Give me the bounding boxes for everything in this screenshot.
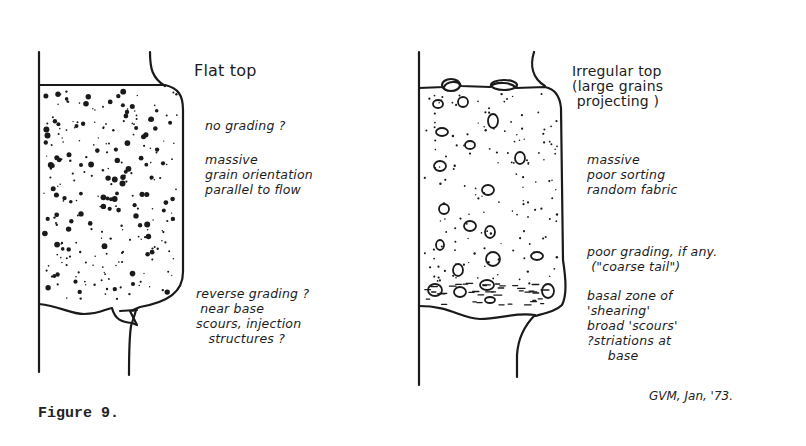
grain-dot <box>136 115 138 117</box>
matrix-dot <box>428 98 430 100</box>
grain-dot <box>144 221 150 227</box>
matrix-dot <box>523 257 525 259</box>
matrix-dot <box>445 231 447 233</box>
grain-dot <box>54 242 60 248</box>
matrix-dot <box>466 133 468 135</box>
matrix-dot <box>444 270 446 272</box>
matrix-dot <box>542 237 544 239</box>
grain-dot <box>128 293 130 295</box>
grain-dot <box>172 92 174 94</box>
grain-dot <box>106 288 108 290</box>
grain-dot <box>112 177 118 183</box>
matrix-dot <box>434 140 436 142</box>
matrix-dot <box>556 145 558 147</box>
grain-dot <box>138 285 140 287</box>
grain-dot <box>65 90 67 92</box>
matrix-dot <box>516 173 518 175</box>
grain-dot <box>58 133 60 135</box>
grain-dot <box>68 101 70 103</box>
matrix-dot <box>497 274 499 276</box>
grain-dot <box>161 240 163 242</box>
grain-dot <box>46 217 50 221</box>
matrix-dot <box>516 134 518 136</box>
grain-dot <box>164 241 166 243</box>
matrix-dot <box>497 162 498 163</box>
grain-dot <box>101 231 103 233</box>
left-note-base: reverse grading ? near base scours, inje… <box>196 286 309 346</box>
grain-dot <box>97 196 99 198</box>
grain-dot <box>109 197 113 201</box>
grain-dot <box>84 281 86 283</box>
matrix-dot <box>454 227 456 229</box>
matrix-dot <box>466 223 468 225</box>
grain-dot <box>56 254 58 256</box>
grain-dot <box>143 145 145 147</box>
matrix-dot <box>483 192 485 194</box>
grain-dot <box>105 175 110 180</box>
grain-dot <box>51 186 56 191</box>
grain-dot <box>170 197 175 202</box>
matrix-dot <box>538 152 540 154</box>
matrix-dot <box>468 262 469 263</box>
clast <box>464 221 476 231</box>
matrix-dot <box>454 241 456 243</box>
grain-dot <box>155 147 159 151</box>
matrix-dot <box>537 112 539 114</box>
grain-dot <box>79 192 83 196</box>
grain-dot <box>66 297 68 299</box>
matrix-dot <box>535 181 537 183</box>
grain-dot <box>124 174 126 176</box>
left-bed-base <box>39 304 137 325</box>
grain-dot <box>134 110 136 112</box>
grain-dot <box>77 215 79 217</box>
grain-dot <box>62 137 63 138</box>
grain-dot <box>145 252 150 257</box>
grain-dot <box>102 106 104 108</box>
grain-dot <box>133 134 135 136</box>
grain-dot <box>132 195 134 197</box>
grain-dot <box>149 286 150 287</box>
grain-dot <box>146 234 151 239</box>
grain-dot <box>53 119 57 123</box>
grain-dot <box>171 212 172 213</box>
grain-dot <box>78 290 82 294</box>
grain-dot <box>116 298 118 300</box>
grain-dot <box>45 285 50 290</box>
grain-dot <box>94 109 96 111</box>
matrix-dot <box>492 278 494 280</box>
matrix-dot <box>534 209 536 211</box>
grain-dot <box>154 246 156 248</box>
grain-dot <box>59 128 61 130</box>
grain-dot <box>140 192 145 197</box>
grain-dot <box>94 255 96 257</box>
matrix-dot <box>477 197 479 199</box>
clast <box>465 141 475 149</box>
matrix-dot <box>549 275 551 277</box>
matrix-dot <box>527 270 529 272</box>
clast <box>458 97 468 107</box>
grain-dot <box>105 123 107 125</box>
grain-dot <box>95 148 100 153</box>
right-bed-clasts <box>428 97 554 303</box>
matrix-dot <box>540 208 542 210</box>
grain-dot <box>121 161 123 163</box>
grain-dot <box>115 205 117 207</box>
grain-dot <box>66 226 71 231</box>
grain-dot <box>143 273 144 274</box>
grain-dot <box>43 126 49 132</box>
grain-dot <box>138 236 140 238</box>
matrix-dot <box>478 122 479 123</box>
matrix-dot <box>445 156 447 158</box>
grain-dot <box>154 105 156 107</box>
clast <box>453 264 463 276</box>
grain-dot <box>175 93 177 95</box>
grain-dot <box>93 284 95 286</box>
matrix-dot <box>513 162 515 164</box>
right-note-base: basal zone of 'shearing' broad 'scours' … <box>587 288 678 363</box>
matrix-dot <box>522 176 524 178</box>
clast <box>515 152 525 164</box>
matrix-dot <box>506 98 508 100</box>
grain-dot <box>110 237 112 239</box>
grain-dot <box>139 156 144 161</box>
matrix-dot <box>439 166 441 168</box>
